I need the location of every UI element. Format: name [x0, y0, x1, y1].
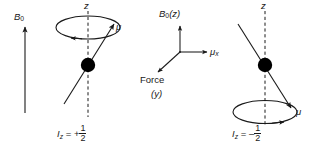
right-spin-equals: = [241, 128, 247, 139]
left-spin-subscript: z [60, 133, 63, 140]
center-force-axis-label: (y) [151, 89, 162, 99]
left-b0-label: B0 [14, 12, 24, 23]
spin-precession-figure: B0 z μ Iz = + 1 2 B0(z) μx Force (y) z μ… [0, 0, 325, 151]
center-force-label: Force [140, 75, 164, 85]
right-nucleus-dot [258, 58, 272, 72]
left-nucleus-dot [81, 58, 95, 72]
center-b0z-paren: (z) [169, 8, 180, 19]
right-spin-state-label: Iz = – 1 2 [232, 124, 261, 143]
left-spin-fraction: 1 2 [79, 124, 86, 143]
center-force-axis-arrow [158, 52, 180, 72]
right-spin-fraction: 1 2 [254, 124, 261, 143]
right-mu-label: μ [296, 107, 301, 117]
left-z-axis-label: z [84, 1, 89, 11]
center-b0z-label: B0(z) [159, 9, 180, 20]
left-mu-label: μ [116, 22, 121, 32]
left-spin-equals: = [66, 128, 72, 139]
right-spin-denominator: 2 [254, 134, 261, 143]
right-spin-subscript: z [235, 133, 238, 140]
left-b0-subscript: 0 [20, 15, 24, 22]
center-mux-label: μx [210, 47, 219, 58]
right-z-axis-label: z [261, 1, 266, 11]
left-spin-state-label: Iz = + 1 2 [57, 124, 86, 143]
center-mux-subscript: x [215, 50, 218, 57]
left-spin-denominator: 2 [79, 134, 86, 143]
